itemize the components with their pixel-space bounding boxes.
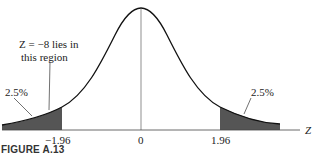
axis-label-z: Z [305, 124, 311, 136]
tick-0: 0 [138, 134, 144, 146]
right-label-pointer [244, 98, 251, 114]
figure-caption: FIGURE A.13 [1, 144, 65, 155]
tick-1-96: 1.96 [211, 134, 230, 146]
left-tail-label: 2.5% [5, 86, 28, 98]
right-tail-label: 2.5% [251, 86, 274, 98]
left-label-pointer [14, 98, 32, 116]
annotation-line-1: Z = −8 lies in [19, 38, 78, 50]
annotation-line-2: this region [21, 51, 68, 63]
annotation-pointer [49, 62, 50, 110]
